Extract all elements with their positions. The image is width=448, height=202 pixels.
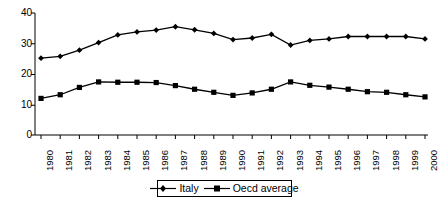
diamond-marker <box>192 27 198 33</box>
diamond-marker <box>96 40 102 46</box>
diamond-marker <box>77 47 83 53</box>
x-axis-tick-label: 1996 <box>352 150 362 171</box>
diamond-marker <box>134 29 140 35</box>
diamond-marker <box>115 32 121 38</box>
x-axis-tick-label: 1997 <box>371 150 381 171</box>
diamond-marker-icon <box>150 184 176 193</box>
x-axis-tick-label: 1994 <box>314 150 324 171</box>
x-axis-tick-label: 1981 <box>64 150 74 171</box>
legend-item-oecd-average: Oecd average <box>204 183 299 194</box>
square-marker-icon <box>204 184 230 193</box>
square-marker <box>326 85 331 90</box>
square-marker <box>422 94 427 99</box>
square-marker <box>58 92 63 97</box>
square-marker <box>365 89 370 94</box>
square-marker <box>77 85 82 90</box>
diamond-marker <box>365 34 371 40</box>
diamond-marker <box>307 38 313 44</box>
square-marker <box>211 90 216 95</box>
x-axis-tick-label: 1993 <box>295 150 305 171</box>
diamond-marker <box>173 24 179 30</box>
diamond-marker <box>249 35 255 41</box>
x-axis-tick-label: 1985 <box>141 150 151 171</box>
diamond-marker <box>57 53 63 59</box>
square-marker <box>230 93 235 98</box>
diamond-marker <box>345 34 351 40</box>
x-axis-tick-label: 1983 <box>103 150 113 171</box>
diamond-marker <box>403 34 409 40</box>
diamond-marker <box>269 31 275 37</box>
x-axis-tick-label: 1991 <box>256 150 266 171</box>
x-axis-tick-label: 1999 <box>410 150 420 171</box>
square-marker <box>96 79 101 84</box>
legend-label-italy: Italy <box>179 183 198 194</box>
square-marker <box>38 96 43 101</box>
line-chart: 40 30 20 10 0 19801981198219831984198519… <box>0 0 448 202</box>
legend-label-oecd-average: Oecd average <box>233 183 299 194</box>
diamond-marker <box>326 36 332 42</box>
chart-legend: Italy Oecd average <box>157 180 292 197</box>
x-axis-tick-label: 1982 <box>83 150 93 171</box>
diamond-marker <box>288 42 294 48</box>
series-oecd-average <box>38 79 427 101</box>
square-marker <box>173 83 178 88</box>
x-axis-tick-label: 1986 <box>160 150 170 171</box>
x-axis-tick-label: 1992 <box>275 150 285 171</box>
x-axis-tick-label: 1998 <box>391 150 401 171</box>
x-axis-ticks <box>41 135 425 139</box>
square-marker <box>269 87 274 92</box>
series-italy <box>38 24 428 61</box>
diamond-marker <box>384 34 390 40</box>
square-marker <box>346 87 351 92</box>
diamond-marker <box>230 37 236 43</box>
plot-area <box>0 0 448 202</box>
x-axis-tick-label: 1988 <box>199 150 209 171</box>
diamond-marker <box>211 31 217 37</box>
square-marker <box>250 90 255 95</box>
square-marker <box>134 80 139 85</box>
x-axis-tick-label: 1989 <box>218 150 228 171</box>
x-axis-tick-label: 1990 <box>237 150 247 171</box>
series-layer <box>38 24 428 101</box>
square-marker <box>192 87 197 92</box>
square-marker <box>384 90 389 95</box>
legend-item-italy: Italy <box>150 183 198 194</box>
x-axis-tick-label: 1984 <box>122 150 132 171</box>
x-axis-tick-label: 2000 <box>429 150 439 171</box>
square-marker <box>403 92 408 97</box>
diamond-marker <box>422 36 428 42</box>
square-marker <box>115 80 120 85</box>
axis-lines <box>31 13 428 135</box>
diamond-marker <box>153 27 159 33</box>
square-marker <box>288 79 293 84</box>
square-marker <box>154 80 159 85</box>
x-axis-tick-label: 1980 <box>45 150 55 171</box>
x-axis-tick-label: 1995 <box>333 150 343 171</box>
square-marker <box>307 83 312 88</box>
diamond-marker <box>38 55 44 61</box>
x-axis-tick-label: 1987 <box>179 150 189 171</box>
